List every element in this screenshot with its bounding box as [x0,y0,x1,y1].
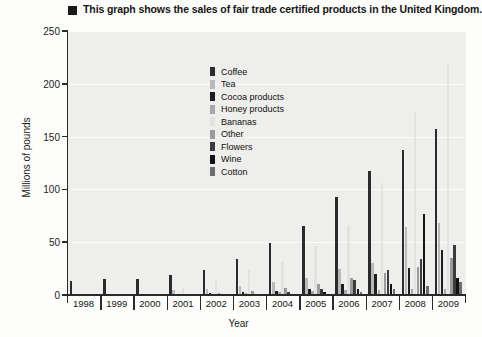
bar [136,279,139,295]
legend-swatch [210,105,215,114]
x-axis-category-label: 2009 [432,298,465,309]
bar-group [101,31,134,295]
bar [70,281,73,295]
legend-item: Coffee [210,66,284,78]
bar-group [134,31,167,295]
legend-label: Honey products [221,104,284,114]
x-axis-category-label: 1999 [100,298,133,309]
legend-item: Flowers [210,141,284,153]
bar [423,214,426,295]
bar-group [367,31,400,295]
legend-swatch [210,142,215,151]
bar-group [68,31,101,295]
y-axis-tick-label: 100 [43,184,60,195]
legend-swatch [210,130,215,139]
y-axis-tick-label: 50 [49,237,60,248]
legend-label: Cotton [221,167,248,177]
y-axis-tick-label: 150 [43,131,60,142]
legend-item: Other [210,129,284,141]
legend-item: Cotton [210,166,284,178]
chart-title: This graph shows the sales of fair trade… [68,3,482,16]
legend: CoffeeTeaCocoa productsHoney productsBan… [210,66,284,178]
x-axis-category-label: 2001 [167,298,200,309]
bar [103,279,106,295]
legend-label: Tea [221,79,236,89]
legend-label: Flowers [221,142,253,152]
bar-group [400,31,433,295]
legend-label: Other [221,129,244,139]
bar-group [300,31,333,295]
x-axis-category-label: 1998 [67,298,100,309]
plot-area: 050100150200250 CoffeeTeaCocoa productsH… [67,31,466,295]
bar-group [433,31,466,295]
x-axis-label: Year [0,318,477,329]
legend-swatch [210,67,215,76]
legend-swatch [210,155,215,164]
x-axis-tick [465,294,466,303]
x-axis-category-label: 2002 [200,298,233,309]
x-axis-category-label: 2003 [233,298,266,309]
legend-label: Wine [221,154,242,164]
x-axis-category-label: 2007 [366,298,399,309]
legend-swatch [210,117,215,126]
chart-title-text: This graph shows the sales of fair trade… [83,3,482,16]
x-axis-category-label: 2005 [299,298,332,309]
x-axis-category-label: 2006 [332,298,365,309]
legend-label: Bananas [221,117,257,127]
x-axis-category-label: 2008 [399,298,432,309]
legend-item: Bananas [210,116,284,128]
legend-label: Coffee [221,67,247,77]
x-axis-category-label: 2004 [266,298,299,309]
legend-swatch [210,167,215,176]
legend-label: Cocoa products [221,92,284,102]
y-axis-tick-label: 250 [43,26,60,37]
legend-item: Wine [210,154,284,166]
x-axis-category-label: 2000 [133,298,166,309]
legend-item: Cocoa products [210,91,284,103]
y-axis-tick-label: 0 [54,290,60,301]
legend-swatch [210,80,215,89]
legend-item: Tea [210,79,284,91]
y-axis-label: Millions of pounds [21,88,32,228]
bar-group [168,31,201,295]
legend-item: Honey products [210,104,284,116]
square-bullet-icon [68,6,77,15]
bar-group [333,31,366,295]
y-axis-tick-label: 200 [43,78,60,89]
legend-swatch [210,92,215,101]
